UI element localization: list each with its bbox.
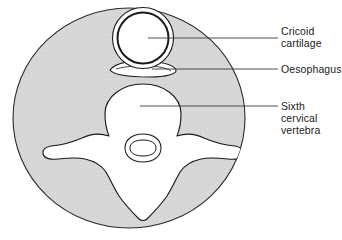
label-oesophagus: Oesophagus bbox=[281, 63, 342, 75]
label-vertebra-line-2: cervical bbox=[281, 112, 320, 124]
label-oesophagus-line-1: Oesophagus bbox=[281, 63, 342, 75]
label-vertebra-line-1: Sixth bbox=[281, 100, 320, 112]
label-cricoid-line-1: Cricoid bbox=[281, 25, 322, 37]
label-vertebra-line-3: vertebra bbox=[281, 124, 320, 136]
spinal-canal-inner-outline bbox=[130, 140, 156, 156]
label-sixth-cervical-vertebra: Sixth cervical vertebra bbox=[281, 100, 320, 137]
label-cricoid-line-2: cartilage bbox=[281, 37, 322, 49]
label-cricoid-cartilage: Cricoid cartilage bbox=[281, 25, 322, 49]
